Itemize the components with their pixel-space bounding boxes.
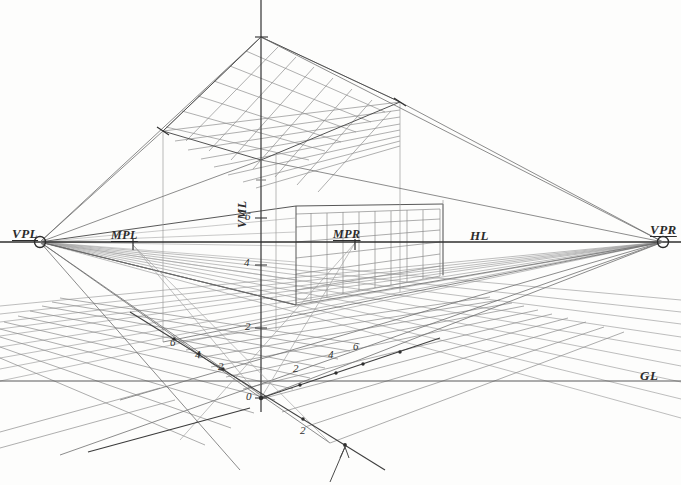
ground-right-mark-6: 6: [353, 340, 359, 352]
ceiling-corner-ticks: [157, 37, 406, 135]
vertical-mark-0: 0: [246, 390, 252, 402]
ceiling-outline: [163, 37, 400, 160]
rays-from-vpr: [60, 37, 663, 455]
ground-left-mark-6: 6: [170, 336, 176, 348]
label-vpl: VPL: [12, 226, 38, 242]
vertical-construction-lines: [163, 102, 443, 342]
perspective-drawing: VPL MPL MPR HL VPR GL VML 6 4 2 0 6 4 2 …: [0, 0, 681, 485]
perspective-canvas: [0, 0, 681, 485]
below-ground-mark-2: 2: [300, 424, 306, 436]
label-mpr: MPR: [333, 227, 361, 242]
label-horizon-line: HL: [470, 228, 489, 244]
label-vpr: VPR: [650, 222, 677, 238]
ground-right-mark-4: 4: [328, 348, 334, 360]
measuring-diagonals: [130, 312, 440, 470]
label-ground-line: GL: [640, 368, 658, 384]
vertical-mark-6: 6: [245, 210, 251, 222]
lower-dark-line: [88, 408, 250, 452]
ground-right-mark-2: 2: [293, 362, 299, 374]
ground-left-mark-2: 2: [218, 360, 224, 372]
vertical-mark-2: 2: [245, 320, 251, 332]
arrow-annotation: [330, 447, 349, 482]
floor-tile-grid: [0, 297, 624, 445]
vertical-measuring-line: [255, 0, 267, 412]
label-mpl: MPL: [111, 228, 138, 243]
ground-grid-to-vpr: [0, 242, 663, 381]
lower-construction-lines: [0, 388, 175, 448]
vertical-mark-4: 4: [244, 256, 250, 268]
ground-left-mark-4: 4: [195, 348, 201, 360]
ceiling-grid: [163, 37, 400, 192]
left-wall-lines: [40, 218, 296, 280]
